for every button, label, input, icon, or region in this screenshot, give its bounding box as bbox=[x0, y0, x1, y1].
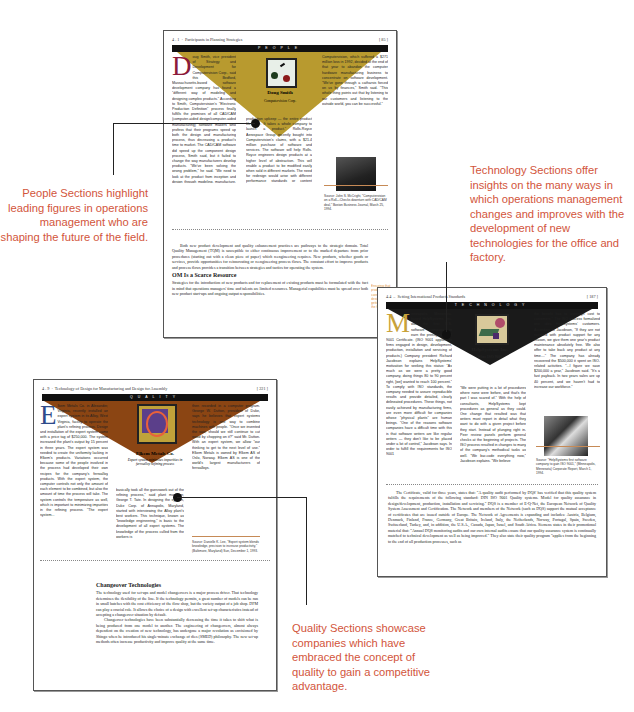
quality-callout: Quality Sections showcase companies whic… bbox=[292, 621, 442, 694]
people-leader-line-v bbox=[113, 123, 114, 175]
section-heading: Changeover Technologies bbox=[96, 583, 258, 588]
caption-rule bbox=[192, 536, 260, 537]
technology-callout: Technology Sections offer insights on th… bbox=[470, 163, 630, 265]
quality-leader-line-h bbox=[177, 497, 307, 498]
quality-leader-line-v bbox=[306, 497, 307, 605]
section-banner: QUALITY bbox=[42, 394, 268, 401]
technology-leader-line-v bbox=[446, 262, 447, 332]
article-column-1: Doug Smith, vice president of Strategy a… bbox=[172, 55, 236, 183]
featured-company: Computervision Corp. bbox=[244, 99, 316, 103]
people-leader-line-h bbox=[113, 123, 255, 124]
featured-name: HelpSystems Inc. bbox=[448, 347, 532, 352]
section-number: 4 . 9 bbox=[42, 386, 49, 391]
technology-page: 4.4 – Setting International Products Sta… bbox=[377, 287, 607, 577]
body-text: Changeover Technologies The technology u… bbox=[96, 580, 258, 644]
caption-rule bbox=[536, 446, 600, 447]
section-number: 4.4 bbox=[386, 294, 391, 299]
section-heading: OM Is a Scarce Resource bbox=[172, 273, 368, 278]
featured-subtitle: Expert system minimizes impurities in fe… bbox=[124, 458, 186, 466]
running-head: 4 . 1 · Participants in Planning Strateg… bbox=[172, 37, 388, 42]
photo-source: Source: John S. McCright, "Computervisio… bbox=[324, 194, 388, 212]
caption-rule bbox=[324, 185, 388, 186]
page-number: [ 187 ] bbox=[587, 294, 598, 299]
running-head-title: Participants in Planning Strategies bbox=[185, 37, 243, 42]
article-column-3: Computervision, which suffered a $271 mi… bbox=[322, 55, 388, 113]
running-head: 4.4 – Setting International Products Sta… bbox=[386, 294, 598, 299]
featured-subtitle: Wins ISO 9001 bbox=[448, 354, 532, 359]
section-banner: PEOPLE bbox=[172, 45, 388, 52]
body-text: The Certificate, valid for three years, … bbox=[388, 490, 596, 544]
quality-page: 4 . 9 · Technology of Design for Manufac… bbox=[33, 379, 277, 691]
article-column-3: the benefit has to outweigh cost to cust… bbox=[534, 312, 600, 402]
section-divider bbox=[40, 560, 270, 561]
section-divider bbox=[172, 229, 388, 230]
product-photo bbox=[544, 416, 588, 456]
running-head: 4 . 9 · Technology of Design for Manufac… bbox=[42, 386, 268, 391]
featured-name: Doug Smith bbox=[244, 90, 316, 95]
featured-name: Elkem Metals Co. bbox=[117, 451, 193, 456]
feature-artwork bbox=[266, 58, 297, 88]
section-divider bbox=[386, 484, 598, 485]
people-callout: People Sections highlight leading figure… bbox=[0, 186, 148, 244]
feature-artwork bbox=[137, 404, 177, 444]
article-column-3: then recorded in a computer program. Geo… bbox=[192, 404, 260, 480]
running-head-title: Setting International Products Standards bbox=[398, 294, 466, 299]
photo-source: Source: "HelpSystems first software comp… bbox=[536, 458, 600, 476]
body-text: Both new product development and quality… bbox=[172, 243, 368, 297]
article-column-1: Elkem Metals Co. in Alexander, Virginia,… bbox=[40, 404, 108, 556]
people-page: 4 . 1 · Participants in Planning Strateg… bbox=[163, 30, 397, 338]
section-banner: TECHNOLOGY bbox=[386, 302, 598, 309]
article-column-2: "We were putting in a lot of procedures … bbox=[460, 386, 526, 480]
page-number: [ 85 ] bbox=[379, 37, 388, 42]
photo-source: Source: Danielle K. Lee, "Expert system … bbox=[192, 540, 260, 553]
feature-artwork bbox=[475, 314, 509, 345]
page-number: [ 221 ] bbox=[257, 386, 268, 391]
section-number: 4 . 1 bbox=[172, 37, 179, 42]
running-head-title: Technology of Design for Manufacturing a… bbox=[55, 386, 168, 391]
